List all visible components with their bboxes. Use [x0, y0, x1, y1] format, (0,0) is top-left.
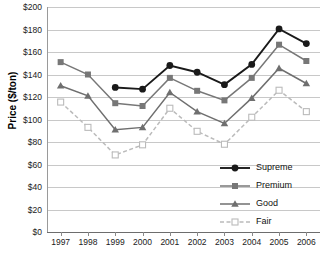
data-point: [167, 105, 173, 111]
data-point: [194, 88, 200, 94]
data-point: [221, 141, 227, 147]
data-point: [112, 100, 118, 106]
data-point: [58, 59, 64, 65]
data-point: [112, 84, 119, 91]
data-point: [276, 42, 282, 48]
data-point: [275, 65, 283, 72]
legend-item-fair[interactable]: Fair: [218, 213, 322, 231]
legend-marker-icon: [218, 177, 252, 195]
data-point: [221, 97, 227, 103]
data-point: [139, 86, 146, 93]
data-point: [166, 89, 174, 96]
legend-marker-icon: [218, 159, 252, 177]
legend-item-supreme[interactable]: Supreme: [218, 159, 322, 177]
data-point: [140, 142, 146, 148]
series-line: [115, 29, 306, 89]
legend-item-premium[interactable]: Premium: [218, 177, 322, 195]
legend-label: Fair: [256, 216, 272, 226]
series-fair: [58, 87, 310, 158]
data-point: [249, 75, 255, 81]
data-point: [194, 69, 201, 76]
data-point: [112, 152, 118, 158]
legend-item-good[interactable]: Good: [218, 195, 322, 213]
data-point: [85, 72, 91, 78]
data-point: [248, 61, 255, 68]
data-point: [85, 124, 91, 130]
data-point: [276, 87, 282, 93]
data-point: [166, 62, 173, 69]
series-line: [61, 90, 307, 155]
data-point: [140, 103, 146, 109]
series-line: [61, 45, 307, 106]
data-point: [221, 81, 228, 88]
legend-label: Premium: [256, 180, 292, 190]
data-point: [57, 82, 65, 89]
data-point: [58, 99, 64, 105]
series-good: [57, 65, 310, 133]
data-point: [303, 109, 309, 115]
data-point: [194, 128, 200, 134]
data-point: [303, 58, 309, 64]
chart-legend: SupremePremiumGoodFair: [218, 159, 322, 231]
data-point: [303, 80, 311, 87]
legend-marker-icon: [218, 195, 252, 213]
data-point: [276, 26, 283, 33]
data-point: [249, 114, 255, 120]
data-point: [167, 75, 173, 81]
legend-label: Supreme: [256, 162, 293, 172]
legend-label: Good: [256, 198, 278, 208]
data-point: [193, 108, 201, 115]
legend-marker-icon: [218, 213, 252, 231]
series-supreme: [112, 26, 310, 93]
line-chart: Price ($/ton) $0$20$40$60$80$100$120$140…: [0, 0, 327, 264]
data-point: [303, 40, 310, 47]
